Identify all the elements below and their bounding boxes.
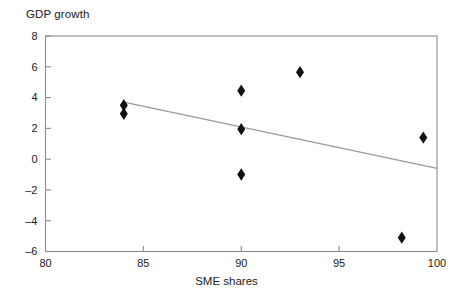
data-point-marker bbox=[296, 66, 304, 78]
regression-line bbox=[124, 102, 437, 168]
y-tick-label: 2 bbox=[31, 122, 37, 134]
y-tick-label: –4 bbox=[25, 215, 37, 227]
y-tick-label: 8 bbox=[31, 30, 37, 42]
data-point-marker bbox=[237, 84, 245, 96]
data-point-marker bbox=[398, 231, 406, 243]
x-tick-label: 90 bbox=[235, 257, 247, 269]
x-tick-label: 80 bbox=[39, 257, 51, 269]
data-points bbox=[120, 66, 427, 244]
data-point-marker bbox=[419, 131, 427, 143]
x-axis-ticks: 80859095100 bbox=[39, 246, 446, 269]
x-tick-label: 95 bbox=[333, 257, 345, 269]
y-tick-label: 0 bbox=[31, 153, 37, 165]
y-tick-label: –6 bbox=[25, 245, 37, 257]
x-axis-title: SME shares bbox=[195, 275, 258, 287]
plot-border bbox=[46, 36, 438, 252]
y-axis-ticks: 86420–2–4–6 bbox=[25, 30, 51, 258]
x-tick-label: 100 bbox=[428, 257, 446, 269]
data-point-marker bbox=[120, 108, 128, 120]
y-tick-label: 6 bbox=[31, 61, 37, 73]
scatter-plot-canvas: 86420–2–4–6 80859095100 SME shares bbox=[0, 0, 453, 289]
data-point-marker bbox=[237, 168, 245, 180]
x-tick-label: 85 bbox=[137, 257, 149, 269]
data-point-marker bbox=[237, 123, 245, 135]
trend-line bbox=[124, 102, 437, 168]
y-tick-label: –2 bbox=[25, 184, 37, 196]
chart-figure: GDP growth 86420–2–4–6 80859095100 SME s… bbox=[0, 0, 453, 289]
plot-frame bbox=[46, 36, 438, 252]
y-tick-label: 4 bbox=[31, 91, 37, 103]
